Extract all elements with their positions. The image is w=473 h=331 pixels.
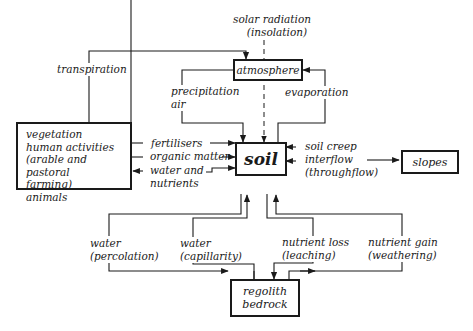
capillarity-water-line: water bbox=[180, 237, 242, 250]
percolation-line: (percolation) bbox=[90, 250, 159, 263]
solar-line: solar radiation bbox=[233, 13, 311, 26]
vegetation-line: vegetation bbox=[26, 128, 130, 141]
fertilisers-label: fertilisers bbox=[151, 137, 202, 150]
soil-system-diagram: atmosphere soil slopes regolith bedrock … bbox=[0, 0, 473, 331]
atmosphere-box: atmosphere bbox=[233, 59, 303, 81]
arable-pastoral-line: (arable and pastoral bbox=[26, 153, 130, 178]
percolation-label: water (percolation) bbox=[90, 237, 159, 263]
atmosphere-label: atmosphere bbox=[236, 64, 299, 76]
insolation-line: (insolation) bbox=[233, 26, 311, 39]
soil-box: soil bbox=[235, 142, 287, 176]
percolation-water-line: water bbox=[90, 237, 159, 250]
vegetation-human-box: vegetation human activities (arable and … bbox=[16, 122, 132, 190]
precipitation-label: precipitation air bbox=[171, 85, 239, 111]
soil-label: soil bbox=[244, 149, 278, 169]
regolith-bedrock-box: regolith bedrock bbox=[230, 279, 300, 317]
organic-matter-label: organic matter bbox=[150, 150, 230, 163]
solar-radiation-label: solar radiation (insolation) bbox=[233, 13, 311, 39]
precipitation-line: precipitation bbox=[171, 85, 239, 98]
soil-creep-line: soil creep bbox=[305, 140, 378, 153]
regolith-label: regolith bbox=[243, 285, 287, 298]
nutrient-gain-line: nutrient gain bbox=[368, 236, 438, 249]
capillarity-line: (capillarity) bbox=[180, 250, 242, 263]
soil-creep-label: soil creep interflow (throughflow) bbox=[305, 140, 378, 179]
evaporation-label: evaporation bbox=[285, 86, 348, 99]
air-line: air bbox=[171, 98, 239, 111]
capillarity-label: water (capillarity) bbox=[180, 237, 242, 263]
bedrock-label: bedrock bbox=[242, 298, 287, 311]
water-and-line: water and bbox=[150, 164, 204, 177]
weathering-line: (weathering) bbox=[368, 249, 438, 262]
farming-line: farming) bbox=[26, 178, 130, 191]
slopes-label: slopes bbox=[413, 156, 448, 169]
weathering-label: nutrient gain (weathering) bbox=[368, 236, 438, 262]
leaching-line: (leaching) bbox=[282, 249, 349, 262]
transpiration-label: transpiration bbox=[57, 63, 127, 76]
human-activities-line: human activities bbox=[26, 141, 130, 154]
nutrient-loss-line: nutrient loss bbox=[282, 236, 349, 249]
animals-line: animals bbox=[26, 191, 130, 204]
throughflow-line: (throughflow) bbox=[305, 166, 378, 179]
interflow-line: interflow bbox=[305, 153, 378, 166]
water-nutrients-label: water and nutrients bbox=[150, 164, 204, 190]
nutrients-line: nutrients bbox=[150, 177, 204, 190]
leaching-label: nutrient loss (leaching) bbox=[282, 236, 349, 262]
slopes-box: slopes bbox=[401, 150, 459, 174]
